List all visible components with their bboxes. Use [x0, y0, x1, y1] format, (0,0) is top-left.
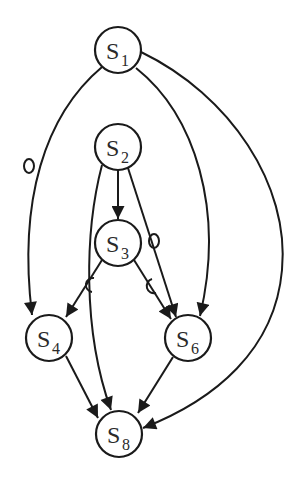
- edge-s2-s8: [89, 165, 111, 410]
- node-s4: S 4: [26, 315, 72, 361]
- node-subscript: 4: [52, 340, 60, 357]
- node-subscript: 3: [121, 245, 129, 262]
- edge-s1-s8: [141, 52, 283, 428]
- node-s2: S 2: [95, 124, 141, 170]
- node-subscript: 1: [121, 52, 129, 69]
- node-s6: S 6: [165, 315, 211, 361]
- node-subscript: 2: [121, 149, 129, 166]
- node-s8: S 8: [96, 411, 142, 457]
- edges: [28, 52, 282, 428]
- node-subscript: 8: [122, 436, 130, 453]
- node-label: S: [106, 135, 119, 161]
- node-label: S: [176, 326, 189, 352]
- node-s3: S 3: [95, 220, 141, 266]
- node-label: S: [37, 326, 50, 352]
- edge-s3-s6: [134, 260, 171, 319]
- directed-graph: S 1 S 2 S 3 S 4 S 6 S 8: [0, 0, 298, 483]
- node-s1: S 1: [95, 27, 141, 73]
- node-label: S: [106, 38, 119, 64]
- node-label: S: [107, 422, 120, 448]
- edge-s6-s8: [138, 357, 173, 413]
- slashed-circle-marker-s1-s4: [24, 159, 34, 173]
- node-label: S: [106, 231, 119, 257]
- node-subscript: 6: [191, 340, 199, 357]
- edge-s3-s4: [66, 260, 102, 317]
- edge-s4-s8: [66, 356, 98, 418]
